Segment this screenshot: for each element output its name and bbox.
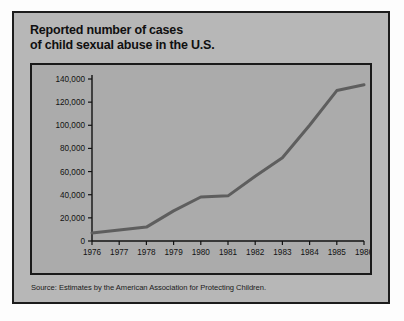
title-line-2: of child sexual abuse in the U.S. — [30, 38, 360, 53]
svg-text:1977: 1977 — [110, 248, 129, 257]
svg-text:1983: 1983 — [273, 248, 292, 257]
svg-text:1978: 1978 — [137, 248, 156, 257]
svg-text:1980: 1980 — [192, 248, 211, 257]
svg-text:1982: 1982 — [246, 248, 265, 257]
chart-figure: Reported number of cases of child sexual… — [0, 0, 404, 321]
source-note: Source: Estimates by the American Associ… — [31, 283, 266, 292]
svg-text:1984: 1984 — [300, 248, 319, 257]
chart-card: Reported number of cases of child sexual… — [12, 11, 390, 304]
svg-text:1979: 1979 — [164, 248, 183, 257]
svg-text:0: 0 — [80, 237, 85, 246]
svg-text:1981: 1981 — [219, 248, 238, 257]
svg-text:1976: 1976 — [83, 248, 102, 257]
svg-text:80,000: 80,000 — [60, 144, 85, 153]
line-chart: 020,00040,00060,00080,000100,000120,0001… — [32, 65, 370, 273]
title-line-1: Reported number of cases — [30, 23, 360, 38]
svg-text:40,000: 40,000 — [60, 191, 85, 200]
svg-text:120,000: 120,000 — [55, 98, 85, 107]
svg-text:140,000: 140,000 — [55, 75, 85, 84]
svg-text:60,000: 60,000 — [60, 168, 85, 177]
svg-text:20,000: 20,000 — [60, 214, 85, 223]
svg-text:1986: 1986 — [355, 248, 370, 257]
page-title: Reported number of cases of child sexual… — [30, 23, 360, 53]
svg-text:100,000: 100,000 — [55, 121, 85, 130]
plot-panel: 020,00040,00060,00080,000100,000120,0001… — [30, 63, 372, 275]
svg-text:1985: 1985 — [328, 248, 347, 257]
